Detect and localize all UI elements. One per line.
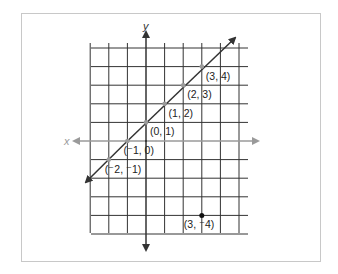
point-label: (1, 2) xyxy=(169,107,194,119)
point-label: (0, 1) xyxy=(150,125,175,137)
point-label: (⁻1, 0) xyxy=(123,144,154,156)
plotted-points: (⁻2, ⁻1)(⁻1, 0)(0, 1)(1, 2)(2, 3)(3, 4)(… xyxy=(105,64,231,230)
x-axis-label: x xyxy=(63,135,70,147)
point-label: (2, 3) xyxy=(187,88,212,100)
coordinate-graph: (⁻2, ⁻1)(⁻1, 0)(0, 1)(1, 2)(2, 3)(3, 4)(… xyxy=(0,0,338,274)
point-label: (3, ⁻4) xyxy=(184,218,215,230)
y-axis-label: y xyxy=(142,20,150,32)
point-label: (⁻2, ⁻1) xyxy=(105,163,142,175)
point-label: (3, 4) xyxy=(206,70,231,82)
